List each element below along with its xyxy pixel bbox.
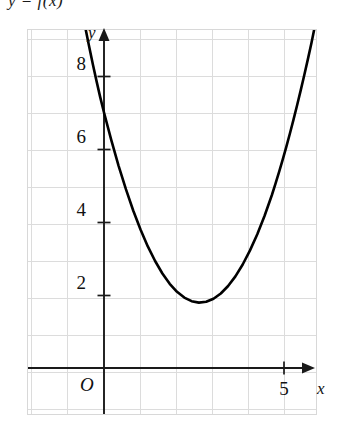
y-tick-label-2: 2 <box>64 272 86 294</box>
y-axis <box>98 28 111 414</box>
y-tick-label-4: 4 <box>64 199 86 221</box>
grid-lines-vertical <box>32 30 285 414</box>
figure-container: y = f(x) <box>0 0 337 423</box>
plot-canvas <box>0 0 337 423</box>
y-axis-label: y <box>88 23 96 43</box>
grid-lines-horizontal <box>28 40 316 410</box>
x-axis-label: x <box>317 379 325 399</box>
y-tick-label-6: 6 <box>64 126 86 148</box>
x-tick-label-5: 5 <box>272 378 296 400</box>
y-tick-label-8: 8 <box>64 53 86 75</box>
origin-label: O <box>80 374 94 396</box>
